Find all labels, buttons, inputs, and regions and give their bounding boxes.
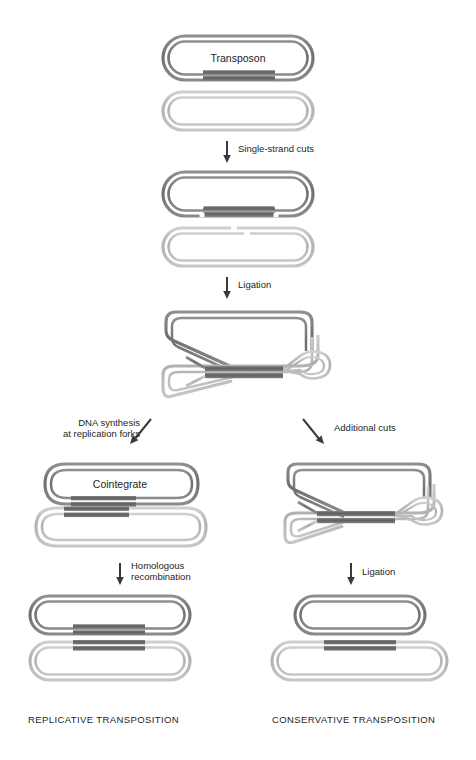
transposon-copy-1-inner xyxy=(71,496,136,500)
transposon-segment-outer xyxy=(73,630,145,635)
transposon-segment-outer xyxy=(203,212,275,216)
transposon-segment-inner xyxy=(73,624,145,628)
nick-left xyxy=(200,213,205,217)
transposon-bridge-bottom xyxy=(205,373,283,378)
diagram-canvas: Transposon Single-strand cuts Ligation xyxy=(0,0,476,760)
transposon-bridge-top xyxy=(205,366,283,371)
step-label-ligation-1: Ligation xyxy=(238,279,271,290)
transposon-segment-outer xyxy=(324,640,396,644)
transposon-copy-2-inner xyxy=(64,507,129,511)
step-label-ligation-2: Ligation xyxy=(362,566,395,577)
nick-right-inner xyxy=(275,205,279,209)
nick-right xyxy=(274,213,279,217)
transposon-segment-inner xyxy=(324,646,396,651)
step-label-homologous-line2: recombination xyxy=(131,571,191,582)
nick-left-inner xyxy=(200,205,204,209)
caption-conservative: CONSERVATIVE TRANSPOSITION xyxy=(272,714,435,725)
transposon-segment-inner xyxy=(73,646,145,651)
step-label-additional-cuts: Additional cuts xyxy=(334,422,396,433)
transposon-segment-inner xyxy=(203,76,275,81)
step-label-dna-synthesis-line1: DNA synthesis xyxy=(78,417,140,428)
step-label-single-strand-cuts: Single-strand cuts xyxy=(238,143,314,154)
transposon-segment-inner xyxy=(203,206,275,210)
background xyxy=(0,0,476,760)
cointegrate-label: Cointegrate xyxy=(93,478,147,490)
transposon-segment-outer xyxy=(73,640,145,644)
transposon-bridge-top xyxy=(317,511,395,516)
transposon-bridge-bottom xyxy=(317,518,395,523)
transposon-copy-1-outer xyxy=(71,502,136,507)
transposon-label: Transposon xyxy=(210,52,265,64)
transposon-segment-outer xyxy=(203,70,275,74)
transposition-diagram: Transposon Single-strand cuts Ligation xyxy=(0,0,476,760)
transposon-copy-2-outer xyxy=(64,513,129,518)
target-nick-left xyxy=(231,226,237,230)
caption-replicative: REPLICATIVE TRANSPOSITION xyxy=(28,714,179,725)
target-nick-right xyxy=(244,232,250,235)
step-label-homologous-line1: Homologous xyxy=(131,560,185,571)
step-label-dna-synthesis-line2: at replication forks xyxy=(63,428,140,439)
